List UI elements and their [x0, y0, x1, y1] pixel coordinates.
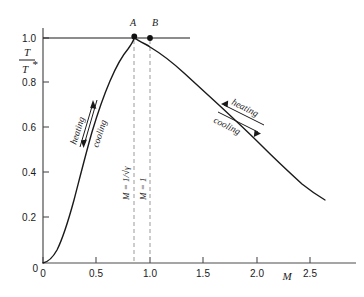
x-tick-label-5: 2.5	[303, 268, 317, 279]
y-tick-label-1: 0.2	[22, 212, 36, 223]
y-axis-denominator: T	[22, 63, 29, 75]
y-axis-denominator-superscript: *	[32, 58, 38, 70]
chart-background	[0, 0, 364, 297]
vline-label-group-1: M = 1/√γ	[121, 166, 131, 201]
data-point-b	[147, 35, 153, 41]
chart-figure: 1.0 0.8 0.6 0.4 0.2 0 T T * 0 0.5 1.0	[0, 0, 364, 297]
data-point-b-label: B	[152, 17, 158, 28]
y-tick-label-3: 0.6	[22, 122, 36, 133]
vline-label-group-2: M = 1	[138, 177, 148, 201]
data-point-a-label: A	[129, 17, 137, 28]
vline-label-m-one: M = 1	[138, 177, 148, 201]
x-tick-label-2: 1.0	[143, 268, 157, 279]
x-tick-label-3: 1.5	[196, 268, 210, 279]
y-tick-label-2: 0.4	[22, 167, 36, 178]
y-tick-label-4: 0.8	[22, 77, 36, 88]
x-tick-label-4: 2.0	[250, 268, 264, 279]
y-tick-label-5: 1.0	[22, 33, 36, 44]
x-tick-label-0: 0	[40, 268, 46, 279]
vline-label-m-sonic-gamma: M = 1/√γ	[121, 166, 131, 201]
x-tick-label-1: 0.5	[89, 268, 103, 279]
y-tick-label-0: 0	[32, 263, 38, 274]
x-axis-title: M	[281, 270, 292, 282]
y-axis-numerator: T	[24, 46, 31, 58]
data-point-a	[131, 34, 137, 40]
rayleigh-flow-temperature-chart: 1.0 0.8 0.6 0.4 0.2 0 T T * 0 0.5 1.0	[0, 0, 364, 297]
